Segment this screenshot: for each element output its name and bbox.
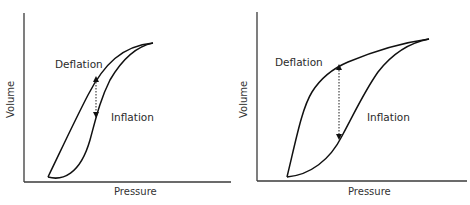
left-inflation-label: Inflation xyxy=(111,111,154,123)
left-y-axis-label: Volume xyxy=(5,81,16,118)
right-panel: Deflation Inflation Pressure Volume xyxy=(238,12,467,197)
arrow-down-icon xyxy=(93,112,99,118)
left-deflation-label: Deflation xyxy=(55,58,103,70)
right-inflation-label: Inflation xyxy=(367,111,410,123)
left-panel: Deflation Inflation Pressure Volume xyxy=(5,13,231,197)
right-y-axis-label: Volume xyxy=(238,81,249,118)
left-x-axis-label: Pressure xyxy=(114,186,157,197)
right-x-axis-label: Pressure xyxy=(348,186,391,197)
right-deflation-label: Deflation xyxy=(275,56,323,68)
hysteresis-diagram: Deflation Inflation Pressure Volume Defl… xyxy=(0,0,470,205)
